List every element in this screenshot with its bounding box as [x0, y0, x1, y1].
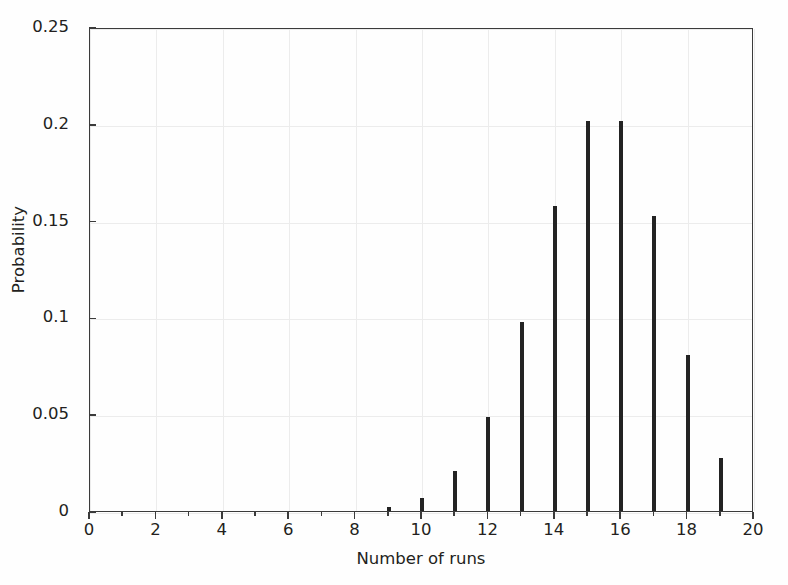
gridline-vertical	[488, 29, 489, 511]
x-axis-tick	[354, 512, 356, 519]
gridline-horizontal	[90, 223, 752, 224]
x-axis-minor-tick	[653, 512, 655, 516]
x-axis-tick	[221, 512, 223, 519]
gridline-vertical	[156, 29, 157, 511]
bar	[719, 458, 723, 511]
x-axis-tick	[686, 512, 688, 519]
x-axis-tick-label: 18	[657, 521, 717, 539]
gridline-horizontal	[90, 29, 752, 30]
bar	[453, 471, 457, 511]
gridline-vertical	[90, 29, 91, 511]
y-axis-tick	[89, 414, 96, 416]
x-axis-minor-tick	[254, 512, 256, 516]
x-axis-tick	[155, 512, 157, 519]
y-axis-tick	[89, 124, 96, 126]
x-axis-minor-tick	[387, 512, 389, 516]
bar	[553, 206, 557, 511]
x-axis-minor-tick	[719, 512, 721, 516]
x-axis-tick-label: 6	[258, 521, 318, 539]
gridline-vertical	[289, 29, 290, 511]
bar	[420, 498, 424, 511]
plot-area	[89, 28, 753, 512]
y-axis-tick	[89, 511, 96, 513]
bar	[686, 355, 690, 511]
gridline-horizontal	[90, 319, 752, 320]
x-axis-minor-tick	[121, 512, 123, 516]
x-axis-tick	[420, 512, 422, 519]
x-axis-tick-label: 14	[524, 521, 584, 539]
x-axis-tick	[752, 512, 754, 519]
y-axis-tick-label: 0.05	[0, 406, 69, 423]
gridline-vertical	[356, 29, 357, 511]
x-axis-minor-tick	[453, 512, 455, 516]
x-axis-tick-label: 2	[125, 521, 185, 539]
x-axis-tick-label: 20	[723, 521, 783, 539]
x-axis-minor-tick	[520, 512, 522, 516]
gridline-vertical	[621, 29, 622, 511]
gridline-vertical	[223, 29, 224, 511]
gridline-vertical	[555, 29, 556, 511]
gridline-horizontal	[90, 126, 752, 127]
bar	[520, 322, 524, 511]
gridlines	[90, 29, 752, 511]
x-axis-title: Number of runs	[89, 549, 753, 568]
gridline-vertical	[422, 29, 423, 511]
gridline-horizontal	[90, 416, 752, 417]
bar-series	[90, 29, 752, 511]
x-axis-tick-label: 10	[391, 521, 451, 539]
x-axis-minor-tick	[321, 512, 323, 516]
x-axis-tick-label: 8	[325, 521, 385, 539]
x-axis-tick	[287, 512, 289, 519]
bar	[619, 121, 623, 511]
x-axis-minor-tick	[188, 512, 190, 516]
y-axis-tick-label: 0.2	[0, 116, 69, 133]
x-axis-minor-tick	[586, 512, 588, 516]
x-axis-tick-label: 12	[457, 521, 517, 539]
gridline-vertical	[754, 29, 755, 511]
x-axis-tick-label: 16	[590, 521, 650, 539]
x-axis-tick-label: 4	[192, 521, 252, 539]
x-axis-tick	[88, 512, 90, 519]
figure-canvas: 00.050.10.150.20.2502468101214161820 Num…	[0, 0, 788, 585]
y-axis-title: Probability	[9, 170, 28, 330]
y-axis-tick-label: 0	[0, 503, 69, 520]
bar	[387, 507, 391, 511]
x-axis-tick	[619, 512, 621, 519]
bar	[486, 417, 490, 511]
bar	[652, 216, 656, 511]
gridline-vertical	[688, 29, 689, 511]
bar	[586, 121, 590, 511]
x-axis-tick-label: 0	[59, 521, 119, 539]
y-axis-tick	[89, 318, 96, 320]
y-axis-tick	[89, 27, 96, 29]
y-axis-tick-label: 0.25	[0, 19, 69, 36]
x-axis-tick	[553, 512, 555, 519]
y-axis-tick	[89, 221, 96, 223]
x-axis-tick	[487, 512, 489, 519]
